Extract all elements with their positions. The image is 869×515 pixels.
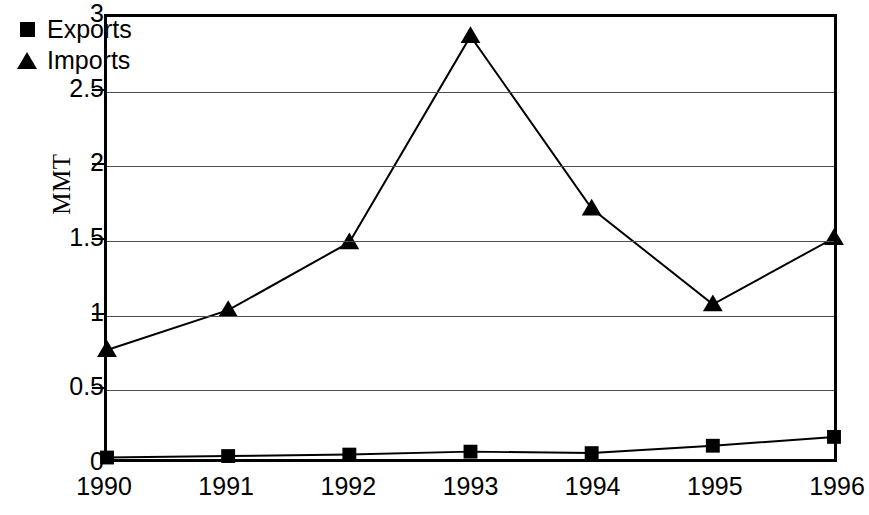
y-tick-label: 0 — [18, 449, 104, 474]
y-tick-mark — [92, 89, 104, 91]
data-point-imports-1995 — [703, 294, 723, 311]
data-point-exports-1994 — [585, 446, 599, 460]
chart-legend: Exports Imports — [16, 14, 196, 76]
y-tick-mark — [92, 313, 104, 315]
x-tick-label: 1991 — [166, 472, 286, 500]
x-tick-label: 1992 — [288, 472, 408, 500]
gridline — [107, 316, 834, 317]
data-point-exports-1990 — [100, 451, 114, 465]
series-line-imports — [107, 36, 834, 350]
data-point-imports-1996 — [824, 228, 844, 245]
legend-label-imports: Imports — [47, 48, 130, 73]
legend-label-exports: Exports — [47, 17, 132, 42]
data-point-imports-1994 — [582, 199, 602, 216]
gridline — [107, 390, 834, 391]
x-tick-label: 1990 — [44, 472, 164, 500]
data-point-exports-1991 — [221, 449, 235, 463]
y-tick-mark — [92, 238, 104, 240]
x-tick-label: 1993 — [411, 472, 531, 500]
data-point-exports-1993 — [464, 445, 478, 459]
data-point-exports-1995 — [706, 439, 720, 453]
series-layer — [107, 17, 834, 459]
square-marker-icon — [16, 17, 38, 43]
data-point-exports-1996 — [827, 430, 841, 444]
data-point-imports-1991 — [218, 300, 238, 317]
y-tick-mark — [92, 387, 104, 389]
y-tick-mark — [92, 163, 104, 165]
legend-item-exports: Exports — [16, 14, 196, 45]
data-point-imports-1993 — [461, 26, 481, 43]
gridline — [107, 166, 834, 167]
plot-area — [104, 14, 837, 462]
x-tick-label: 1995 — [655, 472, 775, 500]
x-tick-label: 1996 — [777, 472, 869, 500]
x-tick-label: 1994 — [533, 472, 653, 500]
gridline — [107, 92, 834, 93]
y-axis: 00.511.522.53 — [0, 0, 104, 515]
triangle-marker-icon — [16, 48, 38, 74]
gridline — [107, 241, 834, 242]
data-point-exports-1992 — [342, 448, 356, 462]
legend-item-imports: Imports — [16, 45, 196, 76]
